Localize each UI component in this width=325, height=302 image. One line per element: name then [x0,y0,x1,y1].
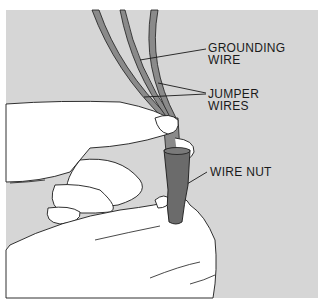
jumper-wires-label: JUMPER WIRES [208,88,259,112]
grounding-wire-label: GROUNDING WIRE [208,42,285,66]
wiring-illustration: GROUNDING WIRE JUMPER WIRES WIRE NUT [0,0,325,302]
wire-nut-label: WIRE NUT [210,166,272,178]
